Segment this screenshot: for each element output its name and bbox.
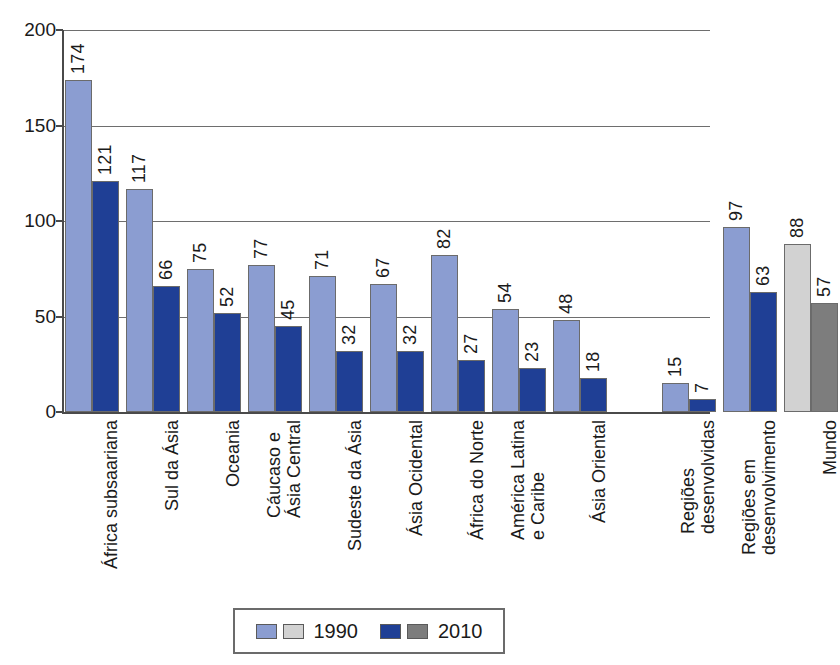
bar bbox=[662, 383, 689, 412]
bar bbox=[750, 292, 777, 412]
bar-group: 5423 bbox=[492, 30, 546, 412]
x-tick-label-line: Ásia Ocidental bbox=[406, 420, 426, 536]
bar bbox=[458, 360, 485, 412]
bar bbox=[553, 320, 580, 412]
bar-value-label: 27 bbox=[462, 334, 480, 354]
bar-value-label: 67 bbox=[374, 258, 392, 278]
bar bbox=[214, 313, 241, 412]
x-tick-label-line: e Caribe bbox=[528, 420, 548, 540]
x-tick-label: América Latinae Caribe bbox=[508, 420, 548, 540]
bar-value-label: 15 bbox=[666, 357, 684, 377]
bar-value-label: 45 bbox=[279, 300, 297, 320]
bar bbox=[723, 227, 750, 412]
legend-swatch-2010-blue bbox=[380, 624, 401, 639]
bar-value-label: 66 bbox=[157, 260, 175, 280]
x-tick-label-line: Sudeste da Ásia bbox=[345, 420, 365, 551]
x-tick-label: África subsaariana bbox=[101, 420, 121, 569]
y-tick-label: 100 bbox=[0, 211, 56, 230]
bar bbox=[811, 303, 838, 412]
bar bbox=[336, 351, 363, 412]
bar-value-label: 48 bbox=[557, 294, 575, 314]
bar bbox=[689, 399, 716, 412]
legend-swatch-2010-gray bbox=[407, 624, 428, 639]
x-tick-label-line: Ásia Central bbox=[284, 420, 304, 518]
x-tick-label-line: América Latina bbox=[508, 420, 528, 540]
legend-label-1990: 1990 bbox=[314, 620, 359, 643]
bar-group: 7132 bbox=[309, 30, 363, 412]
x-tick-label: Sul da Ásia bbox=[162, 420, 182, 511]
bar bbox=[153, 286, 180, 412]
y-axis-line bbox=[62, 30, 64, 414]
x-tick-label: África do Norte bbox=[467, 420, 487, 540]
bar bbox=[492, 309, 519, 412]
x-axis-line bbox=[62, 412, 710, 414]
x-tick-label-line: Cáucaso e bbox=[264, 420, 284, 518]
x-tick-label-line: África subsaariana bbox=[101, 420, 121, 569]
bar-group: 8227 bbox=[431, 30, 485, 412]
x-tick-label: Regiões emdesenvolvimento bbox=[739, 420, 779, 555]
bar-value-label: 7 bbox=[693, 382, 711, 392]
bar-group: 6732 bbox=[370, 30, 424, 412]
bar-value-label: 82 bbox=[435, 229, 453, 249]
x-tick-label-line: Regiões em bbox=[739, 420, 759, 555]
chart-legend: 1990 2010 bbox=[233, 608, 505, 654]
bar-value-label: 71 bbox=[313, 250, 331, 270]
bar-group: 174121 bbox=[65, 30, 119, 412]
bar bbox=[275, 326, 302, 412]
legend-item-2010: 2010 bbox=[380, 620, 483, 643]
bar-group: 7552 bbox=[187, 30, 241, 412]
x-tick-label-line: Mundo bbox=[820, 420, 840, 475]
bar-value-label: 52 bbox=[218, 286, 236, 306]
bar-group: 8857 bbox=[784, 30, 838, 412]
legend-swatch-1990-blue bbox=[256, 624, 277, 639]
legend-swatch-1990-gray bbox=[283, 624, 304, 639]
bar-value-label: 97 bbox=[727, 200, 745, 220]
bar bbox=[92, 181, 119, 412]
x-tick-label: Ásia Oriental bbox=[589, 420, 609, 523]
y-tick-label: 0 bbox=[0, 402, 56, 421]
x-tick-label-line: Oceania bbox=[223, 420, 243, 487]
x-tick-label-line: desenvolvimento bbox=[759, 420, 779, 555]
bar bbox=[65, 80, 92, 412]
x-tick-label-line: Ásia Oriental bbox=[589, 420, 609, 523]
legend-label-2010: 2010 bbox=[438, 620, 483, 643]
bar-group: 157 bbox=[662, 30, 716, 412]
bar bbox=[431, 255, 458, 412]
x-tick-label-line: África do Norte bbox=[467, 420, 487, 540]
y-tick-label: 200 bbox=[0, 20, 56, 39]
bar-value-label: 75 bbox=[191, 242, 209, 262]
bar-value-label: 117 bbox=[130, 153, 148, 182]
x-tick-label-line: Regiões bbox=[678, 420, 698, 534]
x-tick-label-line: desenvolvidas bbox=[698, 420, 718, 534]
bar-group: 7745 bbox=[248, 30, 302, 412]
bar-value-label: 174 bbox=[69, 43, 87, 74]
bar-group: 4818 bbox=[553, 30, 607, 412]
x-tick-label: Mundo bbox=[820, 420, 840, 475]
y-tick-label: 150 bbox=[0, 116, 56, 135]
bar-value-label: 63 bbox=[754, 265, 772, 285]
bar bbox=[580, 378, 607, 412]
x-tick-label: Ásia Ocidental bbox=[406, 420, 426, 536]
bar bbox=[397, 351, 424, 412]
x-tick-label: Sudeste da Ásia bbox=[345, 420, 365, 551]
bar bbox=[784, 244, 811, 412]
bar-value-label: 54 bbox=[496, 282, 514, 302]
bar-value-label: 32 bbox=[340, 324, 358, 344]
bar-group: 9763 bbox=[723, 30, 777, 412]
x-tick-label: Cáucaso eÁsia Central bbox=[264, 420, 304, 518]
plot-area: 1741211176675527745713267328227542348181… bbox=[62, 30, 710, 412]
bar bbox=[126, 189, 153, 412]
bar-value-label: 121 bbox=[96, 144, 114, 175]
bar-value-label: 88 bbox=[788, 218, 806, 238]
bar-value-label: 57 bbox=[815, 277, 833, 297]
bar bbox=[370, 284, 397, 412]
x-tick-label-line: Sul da Ásia bbox=[162, 420, 182, 511]
bar bbox=[187, 269, 214, 412]
x-tick-label: Regiõesdesenvolvidas bbox=[678, 420, 718, 534]
bar-group: 11766 bbox=[126, 30, 180, 412]
x-tick-label: Oceania bbox=[223, 420, 243, 487]
y-tick-label: 50 bbox=[0, 307, 56, 326]
bar-value-label: 77 bbox=[252, 239, 270, 259]
bar-value-label: 23 bbox=[523, 342, 541, 362]
